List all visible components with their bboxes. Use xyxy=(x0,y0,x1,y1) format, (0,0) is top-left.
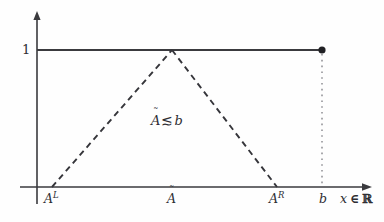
y-axis-arrowhead xyxy=(33,11,40,20)
x-label-a-left-base: A xyxy=(44,191,53,206)
x-label-a-right: AR xyxy=(269,193,284,206)
real-numbers-icon: ℝ xyxy=(362,191,372,206)
x-label-a-modal-group: ˜A xyxy=(167,193,176,206)
x-axis-arrowhead xyxy=(362,183,372,191)
x-label-a-left: AL xyxy=(44,193,59,206)
element-of-icon: ∈ xyxy=(347,191,362,206)
x-label-a-left-superscript: L xyxy=(53,190,59,200)
fuzzy-right-edge-dashed xyxy=(172,50,277,187)
x-label-a-right-base: A xyxy=(269,191,278,206)
x-axis-domain-label: x∈ℝ xyxy=(340,193,373,206)
x-label-b-bound: b xyxy=(319,193,327,206)
figure-canvas xyxy=(0,0,384,222)
relation-annotation: ˜A≲b xyxy=(151,114,183,128)
relation-right-operand: b xyxy=(174,113,182,128)
tilde-accent-left: ˜ xyxy=(153,107,159,118)
y-tick-label-1: 1 xyxy=(22,43,30,56)
domain-variable: x xyxy=(340,191,347,206)
x-label-a-right-superscript: R xyxy=(278,190,284,200)
fuzzy-number-figure: 1 ˜A≲b AL ˜A AR b x∈ℝ xyxy=(0,0,384,222)
tilde-accent-modal: ˜ xyxy=(169,186,174,197)
relation-left-symbol: ˜A xyxy=(151,114,160,127)
bound-endpoint-dot xyxy=(318,46,325,53)
x-label-a-modal: ˜A xyxy=(167,193,176,206)
less-or-approx-icon: ≲ xyxy=(160,112,174,128)
